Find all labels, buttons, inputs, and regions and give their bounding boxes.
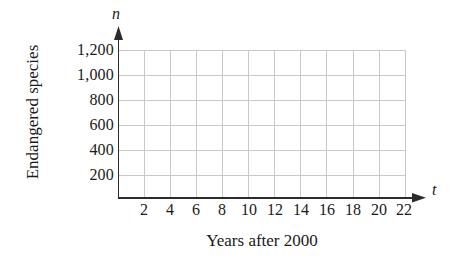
x-tick-4: 4 xyxy=(166,201,174,219)
x-axis-title: Years after 2000 xyxy=(118,232,406,250)
y-axis-title: Endangered species xyxy=(24,17,42,207)
chart-figure: 1,200 1,000 800 600 400 200 2 4 6 8 10 1… xyxy=(0,0,464,268)
x-tick-22: 22 xyxy=(396,201,412,219)
x-tick-16: 16 xyxy=(319,201,335,219)
y-axis-variable-label: n xyxy=(112,6,120,22)
x-tick-6: 6 xyxy=(192,201,200,219)
x-tick-10: 10 xyxy=(241,201,257,219)
x-axis-tick-labels: 2 4 6 8 10 12 14 16 18 20 22 xyxy=(0,0,464,268)
x-tick-2: 2 xyxy=(140,201,148,219)
x-tick-20: 20 xyxy=(371,201,387,219)
x-axis-variable-label: t xyxy=(432,182,436,198)
x-tick-18: 18 xyxy=(345,201,361,219)
x-tick-12: 12 xyxy=(267,201,283,219)
x-tick-14: 14 xyxy=(293,201,309,219)
x-tick-8: 8 xyxy=(218,201,226,219)
